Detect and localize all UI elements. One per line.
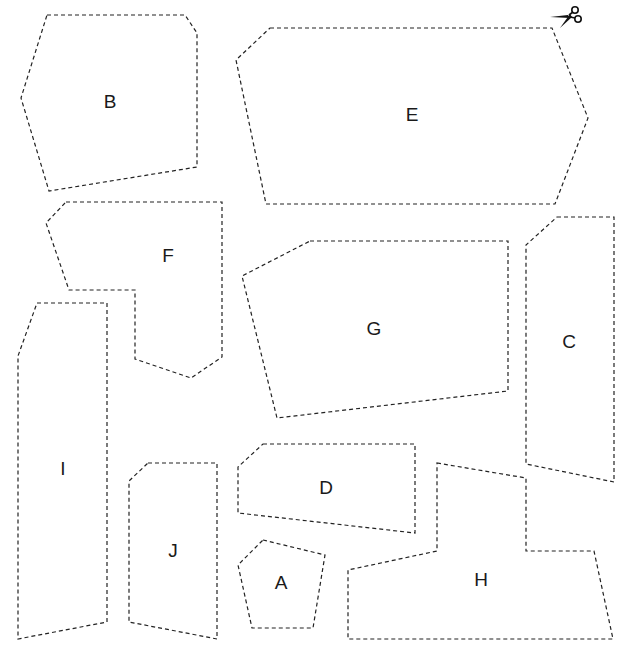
piece-outline[interactable]	[238, 540, 325, 628]
piece-outline[interactable]	[526, 217, 614, 482]
piece-g[interactable]: G	[242, 241, 508, 418]
piece-outline[interactable]	[242, 241, 508, 418]
piece-outline[interactable]	[21, 15, 197, 191]
piece-b[interactable]: B	[21, 15, 197, 191]
piece-outline[interactable]	[236, 28, 588, 204]
piece-e[interactable]: E	[236, 28, 588, 204]
piece-c[interactable]: C	[526, 217, 614, 482]
pieces-layer: ABCDEFGHIJ	[18, 15, 614, 639]
piece-d[interactable]: D	[238, 444, 415, 533]
piece-outline[interactable]	[238, 444, 415, 533]
scissors-icon	[548, 4, 584, 32]
piece-outline[interactable]	[18, 303, 107, 639]
piece-i[interactable]: I	[18, 303, 107, 639]
cutout-sheet: ABCDEFGHIJ	[0, 0, 629, 657]
piece-a[interactable]: A	[238, 540, 325, 628]
piece-outline[interactable]	[129, 463, 217, 639]
piece-j[interactable]: J	[129, 463, 217, 639]
